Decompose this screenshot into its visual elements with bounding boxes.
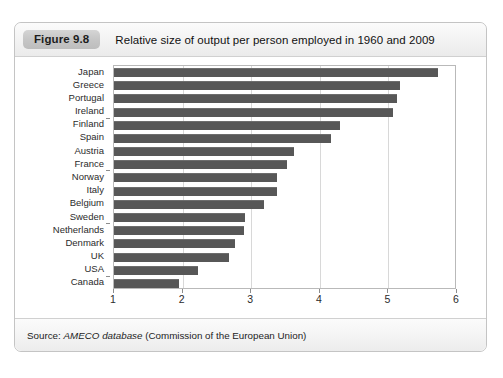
y-axis-label: Greece (73, 80, 104, 90)
bar (114, 160, 287, 169)
bar (114, 68, 438, 77)
bar (114, 253, 229, 262)
figure-footer: Source: AMECO database (Commission of th… (15, 318, 486, 351)
bar-row (114, 250, 455, 263)
bar-row (114, 106, 455, 119)
bar (114, 266, 198, 275)
y-axis-label: Italy (87, 185, 104, 195)
x-axis-tick (387, 289, 388, 293)
bar-row (114, 237, 455, 250)
x-axis-label: 4 (316, 293, 322, 305)
bar-row (114, 224, 455, 237)
y-axis-label: USA (84, 264, 104, 274)
plot-area (113, 65, 456, 289)
figure-body: JapanGreecePortugalIrelandFinlandSpainAu… (15, 57, 486, 319)
y-axis-label: Belgium (70, 198, 104, 208)
bar-row (114, 79, 455, 92)
x-axis-tick (182, 289, 183, 293)
x-axis-label: 1 (110, 293, 116, 305)
x-axis-label: 3 (247, 293, 253, 305)
bar (114, 108, 393, 117)
bar-row (114, 66, 455, 79)
figure-card: Figure 9.8 Relative size of output per p… (14, 22, 487, 352)
bar (114, 200, 264, 209)
x-axis-tick (113, 289, 114, 293)
figure-header: Figure 9.8 Relative size of output per p… (15, 23, 486, 57)
y-axis-tick (106, 276, 110, 277)
y-axis-tick (106, 223, 110, 224)
y-axis-label: Netherlands (53, 225, 104, 235)
figure-title: Relative size of output per person emplo… (115, 34, 434, 46)
bar (114, 213, 245, 222)
source-note: Source: AMECO database (Commission of th… (27, 330, 306, 341)
y-axis-label: UK (91, 251, 104, 261)
y-axis-labels: JapanGreecePortugalIrelandFinlandSpainAu… (15, 65, 110, 289)
y-axis-label: Japan (78, 67, 104, 77)
y-axis-label: Spain (80, 132, 104, 142)
bar (114, 147, 294, 156)
bar (114, 239, 235, 248)
x-axis-label: 2 (179, 293, 185, 305)
y-axis-label: Canada (71, 277, 104, 287)
bar-row (114, 119, 455, 132)
y-axis-label: Austria (74, 146, 104, 156)
y-axis-label: Finland (73, 119, 104, 129)
bar-row (114, 171, 455, 184)
x-axis-label: 5 (384, 293, 390, 305)
bar-row (114, 92, 455, 105)
bar-row (114, 145, 455, 158)
x-axis-tick (319, 289, 320, 293)
bar-row (114, 277, 455, 290)
bar-series (114, 66, 455, 288)
source-database-name: AMECO database (64, 330, 143, 341)
x-axis-labels: 123456 (15, 291, 486, 311)
x-axis-tick (456, 289, 457, 293)
bar-row (114, 264, 455, 277)
y-axis-label: France (74, 159, 104, 169)
bar-row (114, 198, 455, 211)
bar-row (114, 132, 455, 145)
bar (114, 94, 397, 103)
y-axis-label: Sweden (70, 212, 104, 222)
y-axis-tick (106, 170, 110, 171)
bar (114, 81, 400, 90)
bar (114, 226, 244, 235)
figure-number-badge: Figure 9.8 (23, 30, 100, 49)
bar-row (114, 185, 455, 198)
bar (114, 279, 179, 288)
y-axis-label: Ireland (75, 106, 104, 116)
bar (114, 121, 340, 130)
bar (114, 173, 277, 182)
y-axis-label: Norway (72, 172, 104, 182)
x-axis-tick (250, 289, 251, 293)
bar (114, 134, 331, 143)
bar-row (114, 158, 455, 171)
bar (114, 187, 277, 196)
bar-row (114, 211, 455, 224)
x-axis-label: 6 (453, 293, 459, 305)
chart-plot: JapanGreecePortugalIrelandFinlandSpainAu… (15, 57, 486, 319)
y-axis-label: Denmark (65, 238, 104, 248)
y-axis-tick (106, 118, 110, 119)
y-axis-label: Portugal (69, 93, 104, 103)
